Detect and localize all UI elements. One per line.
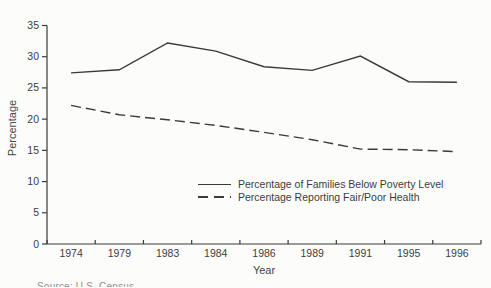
tick-labels: 0510152025303519741979198319841986198919… — [27, 19, 468, 259]
poverty-health-line-chart: 0510152025303519741979198319841986198919… — [0, 0, 491, 288]
svg-text:15: 15 — [27, 144, 39, 156]
svg-text:1983: 1983 — [156, 247, 180, 259]
legend-item-health: Percentage Reporting Fair/Poor Health — [198, 191, 443, 203]
svg-text:30: 30 — [27, 50, 39, 62]
svg-text:1986: 1986 — [252, 247, 276, 259]
legend-item-poverty: Percentage of Families Below Poverty Lev… — [198, 178, 443, 190]
svg-text:1995: 1995 — [397, 247, 421, 259]
svg-text:10: 10 — [27, 175, 39, 187]
y-axis-title: Percentage — [6, 68, 20, 188]
legend-label-health: Percentage Reporting Fair/Poor Health — [238, 191, 420, 203]
axes — [42, 26, 481, 245]
svg-text:1991: 1991 — [349, 247, 373, 259]
svg-text:5: 5 — [33, 206, 39, 218]
legend: Percentage of Families Below Poverty Lev… — [198, 178, 443, 203]
svg-text:1979: 1979 — [108, 247, 132, 259]
source-caption-cutoff: Source: U.S. Census — [37, 281, 267, 287]
svg-text:20: 20 — [27, 113, 39, 125]
svg-text:25: 25 — [27, 81, 39, 93]
svg-text:1974: 1974 — [59, 247, 83, 259]
plot-area: 0510152025303519741979198319841986198919… — [0, 0, 491, 288]
legend-label-poverty: Percentage of Families Below Poverty Lev… — [238, 178, 443, 190]
svg-text:1996: 1996 — [445, 247, 469, 259]
dashed-line-swatch — [198, 196, 231, 198]
svg-text:0: 0 — [33, 238, 39, 250]
solid-line-swatch — [198, 184, 231, 185]
series-line-1 — [71, 105, 457, 151]
x-axis-title: Year — [214, 264, 314, 276]
svg-text:35: 35 — [27, 19, 39, 31]
series-line-0 — [71, 43, 457, 82]
svg-text:1984: 1984 — [204, 247, 228, 259]
svg-text:1989: 1989 — [301, 247, 325, 259]
